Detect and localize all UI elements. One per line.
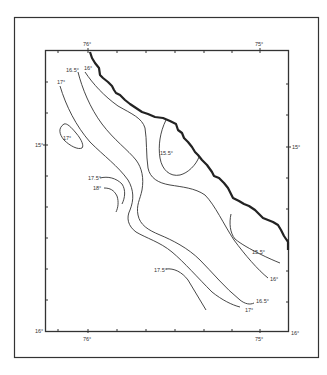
lat-label-right-15: 15° (292, 144, 300, 150)
isotherm-label: 17.5° (88, 175, 101, 181)
isotherm-17-5-south (166, 269, 206, 310)
lat-label-right-16: 16° (291, 330, 299, 336)
outer-frame (15, 18, 319, 358)
isotherm-label: 16° (270, 276, 278, 282)
isotherm-map: 76° 75° 76° 75° 15° 16° 15° 16° 15.5° 15… (0, 0, 327, 375)
isotherm-label: 17° (63, 135, 71, 141)
isotherm-label: 18° (93, 185, 101, 191)
isotherm-labels: 15.5° 15.5° 16° 16° 16.5° 16.5° 17° 17° … (57, 65, 278, 313)
isotherm-label: 17° (245, 307, 253, 313)
isotherm-label: 15.5° (160, 150, 173, 156)
isotherm-lines (60, 72, 280, 310)
isotherm-label: 15.5° (252, 249, 265, 255)
lon-label-top-75: 75° (255, 41, 263, 47)
isotherm-label: 17.5° (154, 267, 167, 273)
lon-label-bottom-76: 76° (83, 336, 91, 342)
isotherm-label: 16.5° (256, 298, 269, 304)
coastline (90, 52, 288, 250)
isotherm-label: 16° (84, 65, 92, 71)
isotherm-label: 16.5° (66, 67, 79, 73)
isotherm-18 (104, 188, 118, 212)
isotherm-label: 17° (57, 79, 65, 85)
lat-label-left-15: 15° (35, 142, 43, 148)
map-frame (46, 51, 289, 332)
tick-marks (43, 48, 291, 333)
latitude-labels: 15° 16° 15° 16° (35, 142, 300, 336)
lat-label-left-16: 16° (35, 328, 43, 334)
lon-label-top-76: 76° (83, 41, 91, 47)
lon-label-bottom-75: 75° (255, 336, 263, 342)
